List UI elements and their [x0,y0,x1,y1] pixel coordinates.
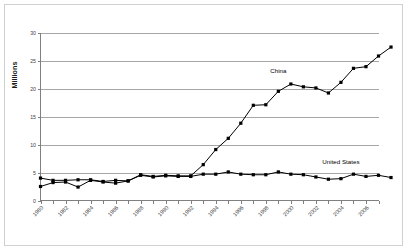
data-point-marker [352,67,355,70]
x-axis-tick-label: 1996 [232,204,245,217]
data-point-marker [364,175,367,178]
x-axis-tick-label: 1980 [31,204,44,217]
y-axis-tick-label: 10 [30,142,36,148]
data-point-marker [327,91,330,94]
data-point-marker [114,182,117,185]
data-point-marker [51,179,54,182]
series-label-china: China [270,67,287,74]
line-chart: 051015202530 198019821984198619881990199… [0,0,409,252]
x-axis-tick-label: 1994 [207,204,220,217]
y-axis-tick-labels: 051015202530 [30,30,36,204]
data-point-marker [89,178,92,181]
x-axis-tick-label: 1986 [106,204,119,217]
data-point-marker [389,45,392,48]
x-axis-tick-labels: 1980198219841986198819901992199419961998… [31,204,370,217]
data-point-marker [214,173,217,176]
data-point-marker [227,137,230,140]
data-point-marker [227,170,230,173]
data-point-marker [202,163,205,166]
x-axis-tick-label: 1998 [257,204,270,217]
data-point-marker [114,179,117,182]
data-point-marker [339,177,342,180]
data-point-marker [364,65,367,68]
x-axis-tick-label: 1984 [81,204,94,217]
data-point-marker [264,173,267,176]
gridlines-group [41,34,379,174]
data-point-marker [202,173,205,176]
data-point-marker [164,174,167,177]
data-point-marker [139,174,142,177]
x-axis-tick-label: 1982 [56,204,69,217]
x-axis-tick-label: 1992 [182,204,195,217]
data-point-marker [377,174,380,177]
data-point-marker [239,173,242,176]
data-point-marker [252,173,255,176]
data-point-marker [339,81,342,84]
data-point-marker [39,177,42,180]
data-point-marker [277,90,280,93]
data-point-marker [152,175,155,178]
y-axis-tick-label: 0 [33,198,36,204]
data-point-marker [189,175,192,178]
y-axis-tick-label: 15 [30,114,36,120]
data-point-marker [289,82,292,85]
chart-svg: 051015202530 198019821984198619881990199… [0,0,409,252]
data-point-marker [239,122,242,125]
data-point-marker [289,173,292,176]
x-axis-tick-label: 1990 [157,204,170,217]
data-point-marker [264,103,267,106]
data-point-marker [314,86,317,89]
data-point-marker [127,179,130,182]
x-axis-tick-label: 1988 [132,204,145,217]
data-point-marker [76,185,79,188]
data-point-marker [314,175,317,178]
data-point-marker [39,185,42,188]
data-point-marker [177,175,180,178]
y-axis-title: Millions [10,62,19,89]
data-point-marker [389,176,392,179]
series-label-united-states: United States [322,158,359,165]
data-point-marker [101,180,104,183]
data-point-marker [214,148,217,151]
y-axis-tick-label: 5 [33,170,36,176]
x-axis-tick-label: 2004 [332,204,345,217]
data-point-marker [76,178,79,181]
x-axis-tick-label: 2002 [307,204,320,217]
data-point-marker [302,85,305,88]
data-point-marker [352,173,355,176]
series-labels-group: ChinaUnited States [270,67,359,165]
data-point-marker [252,104,255,107]
x-axis-tick-label: 2000 [282,204,295,217]
y-axis-tick-label: 25 [30,58,36,64]
data-point-marker [327,178,330,181]
y-axis-tick-label: 30 [30,30,36,36]
data-point-marker [302,173,305,176]
y-axis-tick-label: 20 [30,86,36,92]
data-point-marker [64,179,67,182]
data-point-marker [277,170,280,173]
x-axis-tick-label: 2006 [357,204,370,217]
data-point-marker [377,54,380,57]
